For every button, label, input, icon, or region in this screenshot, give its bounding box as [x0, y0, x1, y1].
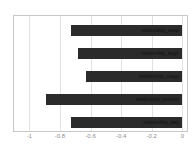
bar: relationship_process [46, 94, 182, 105]
x-axis-tick-labels: -1-0.8-0.6-0.4-0.20 [0, 133, 195, 147]
bar: relationship_step [71, 117, 183, 128]
x-tick-label: -0.4 [116, 133, 126, 139]
bar-label: relationship_setup [141, 25, 180, 36]
x-tick-label: -1 [27, 133, 32, 139]
x-tick-label: -0.2 [147, 133, 157, 139]
bar-label: relationship_process [136, 94, 180, 105]
x-tick-label: 0 [181, 133, 184, 139]
bar-label: relationship_usage [139, 71, 179, 82]
plot-area: relationship_setuprelationship_beginrela… [14, 16, 187, 131]
bar-chart: relationship_setuprelationship_beginrela… [0, 0, 195, 147]
bar-label: relationship_step [143, 117, 179, 128]
x-tick-label: -0.6 [85, 133, 95, 139]
gridline-1 [60, 16, 61, 131]
gridline-5 [182, 16, 183, 131]
bar: relationship_begin [78, 48, 182, 59]
bar: relationship_usage [86, 71, 182, 82]
bar: relationship_setup [71, 25, 183, 36]
bar-label: relationship_begin [141, 48, 180, 59]
gridline-0 [29, 16, 30, 131]
x-tick-label: -0.8 [55, 133, 65, 139]
